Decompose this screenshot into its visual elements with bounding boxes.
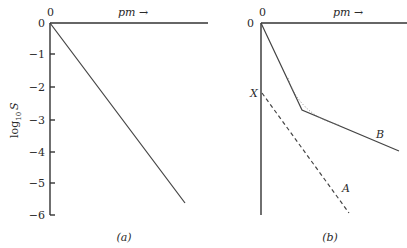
panel-b-caption: (b) xyxy=(322,231,338,244)
panel-b-x-origin-label: 0 xyxy=(259,6,266,19)
panel-b: 0 0 pm → X A B (b) xyxy=(247,6,407,244)
y-tick-minus1: −1 xyxy=(29,48,45,61)
y-tick-minus4: −4 xyxy=(29,146,45,159)
panel-a-caption: (a) xyxy=(116,231,131,244)
y-tick-minus5: −5 xyxy=(29,177,45,190)
panel-b-y-origin-label: 0 xyxy=(247,17,254,30)
panel-b-dotted-curve xyxy=(288,78,339,125)
y-tick-minus2: −2 xyxy=(29,81,45,94)
panel-a-x-origin-label: 0 xyxy=(47,6,54,19)
y-tick-0: 0 xyxy=(38,17,45,30)
label-a: A xyxy=(341,182,350,195)
panel-a-data-line xyxy=(50,23,185,203)
panel-b-x-axis-label: pm → xyxy=(333,6,363,19)
label-b: B xyxy=(375,128,384,141)
panel-a-y-axis-label: log10S xyxy=(8,102,23,138)
figure: 0 pm → 0 −1 −2 −3 −4 −5 −6 log10S xyxy=(0,0,407,248)
panel-a-y-ticks xyxy=(50,54,55,215)
y-tick-minus3: −3 xyxy=(29,114,45,127)
panel-a-y-tick-labels: 0 −1 −2 −3 −4 −5 −6 xyxy=(29,17,45,222)
panel-a-x-axis-label: pm → xyxy=(118,6,148,19)
panel-a: 0 pm → 0 −1 −2 −3 −4 −5 −6 log10S xyxy=(8,6,208,244)
label-x: X xyxy=(249,87,259,100)
y-tick-minus6: −6 xyxy=(29,209,45,222)
svg-text:log10S: log10S xyxy=(8,102,23,138)
